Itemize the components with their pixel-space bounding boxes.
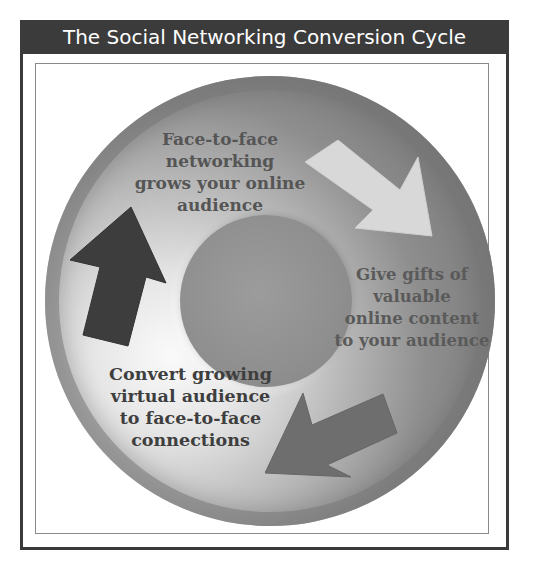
step-label-right: Give gifts of valuable online content to… [322, 264, 502, 352]
step-top-line-3: grows your online [125, 172, 315, 194]
step-top-line-4: audience [125, 194, 315, 216]
step-right-line-4: to your audience [322, 330, 502, 352]
step-bottom-line-2: virtual audience [78, 385, 303, 407]
step-right-line-1: Give gifts of [322, 264, 502, 286]
step-top-line-2: networking [125, 150, 315, 172]
step-right-line-2: valuable [322, 286, 502, 308]
step-label-bottom: Convert growing virtual audience to face… [78, 363, 303, 451]
step-label-top: Face-to-face networking grows your onlin… [125, 128, 315, 216]
step-right-line-3: online content [322, 308, 502, 330]
step-bottom-line-4: connections [78, 429, 303, 451]
step-bottom-line-1: Convert growing [78, 363, 303, 385]
diagram-title: The Social Networking Conversion Cycle [63, 25, 466, 49]
title-bar: The Social Networking Conversion Cycle [20, 20, 509, 54]
arrow-up-icon [68, 205, 178, 350]
step-top-line-1: Face-to-face [125, 128, 315, 150]
arrow-down-right-icon [300, 140, 440, 245]
step-bottom-line-3: to face-to-face [78, 407, 303, 429]
